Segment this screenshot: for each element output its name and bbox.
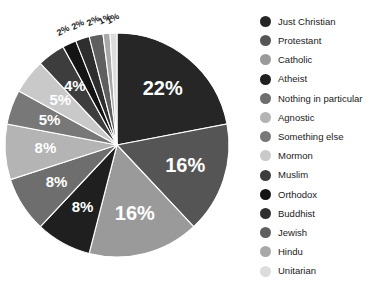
pie-chart-figure: 22%16%16%8%8%8%5%5%4%2%2%2%1%1% Just Chr… xyxy=(0,0,385,284)
legend-swatch-icon xyxy=(260,208,271,219)
legend-item[interactable]: Hindu xyxy=(260,242,385,261)
legend-item[interactable]: Orthodox xyxy=(260,185,385,204)
legend-swatch-icon xyxy=(260,93,271,104)
pie-chart-plot-area: 22%16%16%8%8%8%5%5%4%2%2%2%1%1% xyxy=(0,0,240,284)
legend-swatch-icon xyxy=(260,246,271,257)
legend-item-label: Protestant xyxy=(278,36,321,46)
legend-item[interactable]: Agnostic xyxy=(260,108,385,127)
legend-item-label: Just Christian xyxy=(278,17,336,27)
legend-swatch-icon xyxy=(260,150,271,161)
legend-item-label: Jewish xyxy=(278,228,307,238)
legend-item[interactable]: Muslim xyxy=(260,166,385,185)
legend-item[interactable]: Buddhist xyxy=(260,204,385,223)
legend-item-label: Mormon xyxy=(278,151,313,161)
legend-swatch-icon xyxy=(260,54,271,65)
legend-item-label: Buddhist xyxy=(278,209,315,219)
legend-swatch-icon xyxy=(260,74,271,85)
legend-item[interactable]: Catholic xyxy=(260,50,385,69)
legend-item[interactable]: Unitarian xyxy=(260,261,385,280)
pie-slice-label: 8% xyxy=(46,173,68,190)
legend-item[interactable]: Protestant xyxy=(260,31,385,50)
legend-item-label: Nothing in particular xyxy=(278,94,363,104)
pie-slice-label: 16% xyxy=(165,154,205,176)
legend-item-label: Muslim xyxy=(278,170,308,180)
legend-swatch-icon xyxy=(260,35,271,46)
legend-item-label: Unitarian xyxy=(278,266,316,276)
pie-slice-label: 8% xyxy=(35,139,57,156)
pie-slice-label: 2% xyxy=(55,23,71,38)
legend-item-label: Atheist xyxy=(278,74,307,84)
legend-item[interactable]: Just Christian xyxy=(260,12,385,31)
legend-item-label: Orthodox xyxy=(278,190,317,200)
legend-swatch-icon xyxy=(260,16,271,27)
pie-slice-label: 16% xyxy=(115,202,155,224)
legend-item[interactable]: Jewish xyxy=(260,223,385,242)
legend-item[interactable]: Mormon xyxy=(260,146,385,165)
legend-swatch-icon xyxy=(260,131,271,142)
legend-item-label: Catholic xyxy=(278,55,312,65)
legend-swatch-icon xyxy=(260,170,271,181)
legend-item-label: Something else xyxy=(278,132,343,142)
pie-slice-label: 8% xyxy=(72,198,94,215)
pie-slice-label: 4% xyxy=(64,77,86,94)
legend-swatch-icon xyxy=(260,189,271,200)
legend-item[interactable]: Atheist xyxy=(260,70,385,89)
pie-slice-label: 5% xyxy=(39,111,61,128)
legend-item[interactable]: Nothing in particular xyxy=(260,89,385,108)
legend-swatch-icon xyxy=(260,227,271,238)
legend-item-label: Agnostic xyxy=(278,113,314,123)
pie-chart-svg: 22%16%16%8%8%8%5%5%4%2%2%2%1%1% xyxy=(0,0,240,284)
chart-legend: Just ChristianProtestantCatholicAtheistN… xyxy=(260,12,385,281)
pie-slice-label: 2% xyxy=(70,17,86,32)
pie-slice-label: 22% xyxy=(143,77,183,99)
legend-swatch-icon xyxy=(260,112,271,123)
legend-item[interactable]: Something else xyxy=(260,127,385,146)
legend-swatch-icon xyxy=(260,266,271,277)
legend-item-label: Hindu xyxy=(278,247,303,257)
